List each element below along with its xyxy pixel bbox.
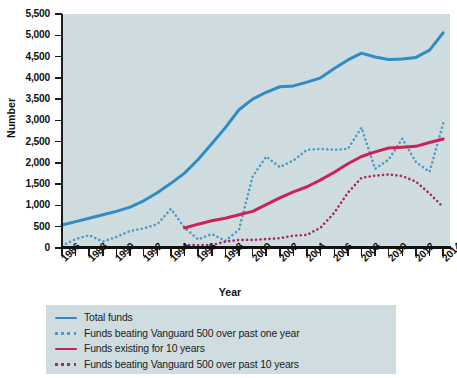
legend-item-2[interactable]: Funds beating Vanguard 500 over past one… <box>54 326 396 342</box>
y-tick-mark <box>55 120 62 121</box>
legend-item-3[interactable]: Funds existing for 10 years <box>54 341 396 357</box>
y-tick-mark <box>55 98 62 99</box>
series-line-2 <box>62 123 443 246</box>
legend-item-4[interactable]: Funds beating Vanguard 500 over past 10 … <box>54 357 396 373</box>
legend-label: Funds beating Vanguard 500 over past 10 … <box>84 359 299 370</box>
series-line-1 <box>62 33 443 225</box>
legend-swatch-icon <box>54 312 78 324</box>
chart-plot-wrapper: 05001,0001,5002,0002,5003,0003,5004,0004… <box>0 0 457 300</box>
legend-swatch-icon <box>54 327 78 339</box>
legend-swatch-icon <box>54 358 78 370</box>
y-tick-label: 5,000 <box>4 30 50 40</box>
y-tick-mark <box>55 226 62 227</box>
y-tick-label: 1,000 <box>4 200 50 210</box>
y-tick-label: 5,500 <box>4 9 50 19</box>
y-tick-mark <box>55 56 62 57</box>
legend-line-sample <box>55 332 77 335</box>
series-line-4 <box>185 174 444 245</box>
data-series-layer <box>62 14 450 248</box>
y-tick-label: 2,000 <box>4 158 50 168</box>
y-axis-label: Number <box>5 83 17 153</box>
legend-label: Total funds <box>84 312 133 323</box>
legend-line-sample <box>55 348 77 351</box>
y-tick-label: 1,500 <box>4 179 50 189</box>
legend-line-sample <box>55 317 77 320</box>
chart-legend: Total fundsFunds beating Vanguard 500 ov… <box>46 305 396 374</box>
y-axis-line <box>61 14 63 248</box>
y-tick-mark <box>55 77 62 78</box>
y-tick-mark <box>55 162 62 163</box>
y-tick-label: 4,000 <box>4 73 50 83</box>
legend-label: Funds existing for 10 years <box>84 343 205 354</box>
series-line-3 <box>185 139 444 228</box>
y-tick-label: 0 <box>4 243 50 253</box>
legend-label: Funds beating Vanguard 500 over past one… <box>84 328 299 339</box>
legend-swatch-icon <box>54 343 78 355</box>
plot-area <box>62 14 450 248</box>
y-tick-mark <box>55 35 62 36</box>
y-tick-mark <box>55 205 62 206</box>
y-tick-mark <box>55 141 62 142</box>
legend-item-1[interactable]: Total funds <box>54 310 396 326</box>
y-tick-label: 500 <box>4 222 50 232</box>
y-tick-label: 4,500 <box>4 52 50 62</box>
legend-line-sample <box>55 363 77 366</box>
y-tick-mark <box>55 13 62 14</box>
chart-page: 05001,0001,5002,0002,5003,0003,5004,0004… <box>0 0 457 378</box>
x-axis-label: Year <box>190 286 270 298</box>
y-tick-mark <box>55 183 62 184</box>
